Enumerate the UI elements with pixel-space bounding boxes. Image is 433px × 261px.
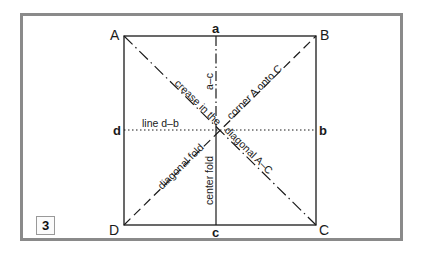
midpoint-label-c: c — [212, 225, 219, 240]
label-center-fold: center fold — [203, 156, 215, 205]
corner-label-b: B — [320, 27, 329, 43]
folding-diagram: A B C D a b c d crease in the diagonal A… — [0, 0, 433, 261]
corner-label-c: C — [319, 222, 329, 238]
midpoint-label-d: d — [113, 123, 121, 138]
label-corner-a-onto-c: corner A onto C — [224, 62, 284, 122]
label-diagonal-fold: diagonal fold — [155, 141, 206, 191]
midpoint-label-a: a — [212, 21, 220, 36]
midpoint-label-b: b — [319, 123, 327, 138]
label-line-d-b: line d–b — [142, 117, 179, 129]
step-number-badge: 3 — [36, 216, 55, 235]
label-diagonal-a-c: diagonal A–C — [223, 124, 276, 177]
corner-label-d: D — [109, 222, 119, 238]
label-a-c: a–c — [203, 73, 215, 90]
corner-label-a: A — [110, 27, 120, 43]
